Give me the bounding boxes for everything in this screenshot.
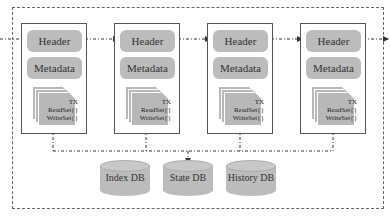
db-label: Index DB <box>100 172 150 183</box>
block-1: Header Metadata TX ReadSet{} WriteSet{} <box>21 23 87 134</box>
index-db-cylinder: Index DB <box>100 160 150 196</box>
block-3: Header Metadata TX ReadSet{} WriteSet{} <box>207 23 273 134</box>
transactions-stack: TX ReadSet{} WriteSet{} <box>218 86 264 126</box>
block-header: Header <box>306 30 361 52</box>
block-header: Header <box>213 30 268 52</box>
transactions-stack: TX ReadSet{} WriteSet{} <box>125 86 171 126</box>
block-metadata: Metadata <box>120 57 175 79</box>
block-metadata: Metadata <box>306 57 361 79</box>
block-4: Header Metadata TX ReadSet{} WriteSet{} <box>300 23 366 134</box>
transactions-stack: TX ReadSet{} WriteSet{} <box>32 86 78 126</box>
tx-label: TX <box>40 98 78 106</box>
writeset-label: WriteSet{} <box>319 114 357 122</box>
writeset-label: WriteSet{} <box>226 114 264 122</box>
readset-label: ReadSet{} <box>133 106 171 114</box>
writeset-label: WriteSet{} <box>40 114 78 122</box>
readset-label: ReadSet{} <box>40 106 78 114</box>
tx-label: TX <box>133 98 171 106</box>
history-db-cylinder: History DB <box>226 160 276 196</box>
readset-label: ReadSet{} <box>226 106 264 114</box>
writeset-label: WriteSet{} <box>133 114 171 122</box>
block-metadata: Metadata <box>213 57 268 79</box>
block-2: Header Metadata TX ReadSet{} WriteSet{} <box>114 23 180 134</box>
block-header: Header <box>120 30 175 52</box>
tx-label: TX <box>226 98 264 106</box>
readset-label: ReadSet{} <box>319 106 357 114</box>
block-metadata: Metadata <box>27 57 82 79</box>
state-db-cylinder: State DB <box>163 160 213 196</box>
transactions-stack: TX ReadSet{} WriteSet{} <box>311 86 357 126</box>
db-label: State DB <box>163 172 213 183</box>
block-header: Header <box>27 30 82 52</box>
tx-label: TX <box>319 98 357 106</box>
db-label: History DB <box>226 172 276 183</box>
